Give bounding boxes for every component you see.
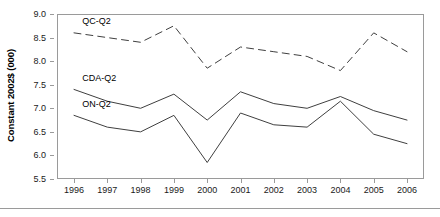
- x-tick-label: 2003: [297, 185, 317, 195]
- y-tick-label: 7.0: [33, 103, 46, 113]
- x-tick-mark: [307, 179, 308, 183]
- y-tick-mark: [50, 61, 54, 62]
- x-tick-label: 2002: [264, 185, 284, 195]
- y-tick-mark: [50, 132, 54, 133]
- plot-area: [57, 14, 424, 179]
- x-tick-mark: [274, 179, 275, 183]
- y-tick-label: 6.0: [33, 150, 46, 160]
- y-tick-label: 9.0: [33, 9, 46, 19]
- x-tick-mark: [74, 179, 75, 183]
- x-tick-label: 1999: [164, 185, 184, 195]
- x-tick-mark: [407, 179, 408, 183]
- x-axis-ticks: 1996199719981999200020012002200320042005…: [0, 179, 440, 201]
- x-tick-mark: [241, 179, 242, 183]
- y-axis-title: Constant 2002$ (000): [0, 0, 22, 190]
- x-tick-label: 2005: [364, 185, 384, 195]
- y-axis-ticks: 9.08.58.07.57.06.56.05.5: [24, 0, 54, 190]
- x-tick-label: 1996: [64, 185, 84, 195]
- x-tick-label: 2000: [197, 185, 217, 195]
- y-tick-label: 6.5: [33, 127, 46, 137]
- y-tick-mark: [50, 14, 54, 15]
- x-tick-label: 1998: [131, 185, 151, 195]
- chart-screenshot: Constant 2002$ (000) 9.08.58.07.57.06.56…: [0, 0, 440, 217]
- x-tick-mark: [141, 179, 142, 183]
- y-tick-mark: [50, 85, 54, 86]
- y-axis-title-text: Constant 2002$ (000): [6, 48, 17, 141]
- x-tick-label: 2006: [397, 185, 417, 195]
- series-label-cda-q2: CDA-Q2: [82, 73, 116, 83]
- x-tick-label: 2004: [330, 185, 350, 195]
- x-tick-label: 1997: [97, 185, 117, 195]
- series-label-on-q2: ON-Q2: [82, 99, 111, 109]
- x-tick-label: 2001: [230, 185, 250, 195]
- y-tick-mark: [50, 108, 54, 109]
- x-tick-mark: [374, 179, 375, 183]
- x-tick-mark: [174, 179, 175, 183]
- y-tick-mark: [50, 38, 54, 39]
- y-tick-label: 7.5: [33, 80, 46, 90]
- series-label-qc-q2: QC-Q2: [82, 16, 111, 26]
- y-tick-label: 8.0: [33, 56, 46, 66]
- y-tick-mark: [50, 155, 54, 156]
- x-tick-mark: [107, 179, 108, 183]
- bottom-divider: [0, 208, 440, 209]
- y-tick-label: 8.5: [33, 33, 46, 43]
- x-tick-mark: [207, 179, 208, 183]
- x-tick-mark: [340, 179, 341, 183]
